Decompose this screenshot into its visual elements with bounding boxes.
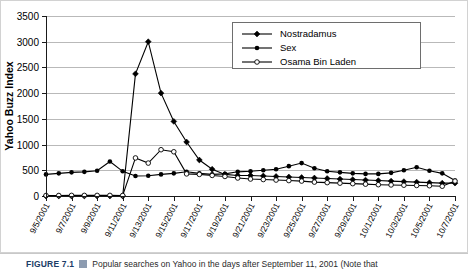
data-point xyxy=(95,169,100,174)
x-tick-label: 9/23/2001 xyxy=(255,201,282,239)
data-point xyxy=(133,156,138,161)
data-point xyxy=(197,172,202,177)
y-tick-label: 3500 xyxy=(17,11,40,22)
x-tick-label: 9/29/2001 xyxy=(332,201,359,239)
x-tick-label: 9/9/2001 xyxy=(78,201,102,235)
data-point xyxy=(158,90,164,96)
x-tick-label: 9/25/2001 xyxy=(281,201,308,239)
x-tick-label: 9/11/2001 xyxy=(102,201,128,239)
data-point xyxy=(172,171,177,176)
data-point xyxy=(376,182,381,187)
y-tick-label: 500 xyxy=(22,165,39,176)
data-point xyxy=(363,182,368,187)
x-tick-label: 9/7/2001 xyxy=(53,201,77,235)
data-point xyxy=(69,170,74,175)
data-point xyxy=(159,147,164,152)
data-point xyxy=(427,183,432,188)
data-point xyxy=(440,184,445,189)
data-point xyxy=(248,169,253,174)
data-point xyxy=(376,172,381,177)
x-tick-label: 10/7/2001 xyxy=(434,201,461,239)
data-point xyxy=(56,193,61,198)
data-point xyxy=(82,170,87,175)
legend-label: Nostradamus xyxy=(280,28,337,39)
data-point xyxy=(261,168,266,173)
x-tick-label: 9/27/2001 xyxy=(306,201,333,239)
data-point xyxy=(350,181,355,186)
data-point xyxy=(325,169,330,174)
data-point xyxy=(363,172,368,177)
data-point xyxy=(146,161,151,166)
legend-label: Osama Bin Laden xyxy=(280,56,356,67)
figure-container: 0500100015002000250030003500 9/5/20019/7… xyxy=(0,0,468,273)
data-point xyxy=(389,171,394,176)
yahoo-buzz-index-line-chart: 0500100015002000250030003500 9/5/20019/7… xyxy=(0,0,468,253)
data-point xyxy=(184,172,189,177)
data-point xyxy=(325,180,330,185)
data-point xyxy=(287,164,292,169)
data-point xyxy=(261,177,266,182)
x-tick-label: 9/15/2001 xyxy=(153,201,180,239)
y-tick-label: 2500 xyxy=(17,62,40,73)
legend-label: Sex xyxy=(280,42,297,53)
data-point xyxy=(350,171,355,176)
x-tick-label: 9/13/2001 xyxy=(127,201,154,239)
data-point xyxy=(255,46,260,51)
data-point xyxy=(453,179,458,184)
data-point xyxy=(299,179,304,184)
x-tick-label: 10/5/2001 xyxy=(408,201,435,239)
data-point xyxy=(402,183,407,188)
caption-text: Popular searches on Yahoo in the days af… xyxy=(92,259,377,269)
data-point xyxy=(312,166,317,171)
data-point xyxy=(440,171,445,176)
x-tick-label: 10/1/2001 xyxy=(357,201,384,239)
data-point xyxy=(159,172,164,177)
data-point xyxy=(235,176,240,181)
data-point xyxy=(172,149,177,154)
caption-figure-number: FIGURE 7.1 xyxy=(26,259,74,269)
y-tick-label: 1000 xyxy=(17,140,40,151)
data-point xyxy=(274,167,279,172)
data-point xyxy=(414,183,419,188)
y-tick-label: 2000 xyxy=(17,88,40,99)
data-point xyxy=(427,169,432,174)
data-point xyxy=(145,39,151,45)
data-point xyxy=(299,161,304,166)
y-axis-title: Yahoo Buzz Index xyxy=(3,61,15,150)
data-point xyxy=(210,173,215,178)
y-tick-label: 0 xyxy=(33,191,39,202)
data-point xyxy=(287,178,292,183)
data-point xyxy=(414,165,419,170)
data-point xyxy=(120,169,125,174)
x-tick-label: 10/3/2001 xyxy=(383,201,410,239)
data-point xyxy=(56,171,61,176)
figure-marker-icon xyxy=(79,260,87,268)
data-point xyxy=(108,159,113,164)
data-point xyxy=(120,193,125,198)
data-point xyxy=(255,60,260,65)
x-tick-label: 9/17/2001 xyxy=(178,201,205,239)
data-point xyxy=(235,170,240,175)
data-point xyxy=(146,173,151,178)
y-axis-ticks-group: 0500100015002000250030003500 xyxy=(17,11,46,202)
x-tick-label: 9/19/2001 xyxy=(204,201,231,239)
x-axis-ticks-group: 9/5/20019/7/20019/9/20019/11/20019/13/20… xyxy=(27,196,460,239)
data-point xyxy=(402,168,407,173)
figure-caption: FIGURE 7.1 Popular searches on Yahoo in … xyxy=(0,253,468,273)
data-point xyxy=(133,174,138,179)
data-point xyxy=(338,170,343,175)
data-point xyxy=(223,174,228,179)
x-tick-label: 9/21/2001 xyxy=(230,201,257,239)
y-tick-label: 1500 xyxy=(17,114,40,125)
data-point xyxy=(338,181,343,186)
data-point xyxy=(389,183,394,188)
data-point xyxy=(274,178,279,183)
y-tick-label: 3000 xyxy=(17,37,40,48)
data-point xyxy=(133,71,139,77)
data-point xyxy=(312,180,317,185)
chart-legend: NostradamusSexOsama Bin Laden xyxy=(233,23,421,69)
data-point xyxy=(248,177,253,182)
x-tick-label: 9/5/2001 xyxy=(27,201,51,235)
